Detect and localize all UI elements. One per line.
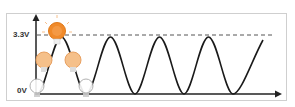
bulb-dim-icon	[36, 52, 52, 72]
x-axis-arrow-icon	[275, 91, 282, 98]
y-axis-arrow-icon	[33, 14, 40, 21]
bulb-dim-icon	[65, 52, 81, 72]
bulb-bright-icon	[42, 15, 72, 44]
sine-wave-diagram	[0, 0, 295, 107]
